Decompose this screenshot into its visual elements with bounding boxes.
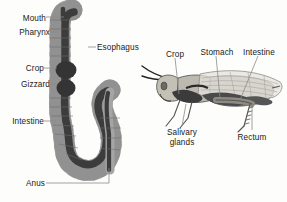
digestive-system-figure: Mouth Pharynx Esophagus Crop Gizzard Int… (0, 0, 287, 202)
label-rectum: Rectum (231, 133, 273, 142)
hind-tarsus (238, 126, 244, 132)
label-intestine-right: Intestine (237, 48, 281, 57)
compound-eye (161, 82, 167, 90)
grasshopper-artwork (142, 56, 282, 132)
label-pharynx: Pharynx (0, 28, 50, 37)
label-intestine: Intestine (0, 117, 44, 126)
label-esophagus: Esophagus (97, 43, 139, 52)
alimentary-canal-artwork (44, 9, 121, 183)
crop-bulb (56, 61, 77, 79)
label-anus: Anus (0, 179, 45, 188)
label-mouth: Mouth (0, 14, 46, 23)
label-salivary-glands-line2: glands (160, 138, 204, 147)
foreleg (166, 100, 180, 126)
label-gizzard: Gizzard (0, 80, 50, 89)
label-stomach: Stomach (196, 48, 238, 57)
label-crop: Crop (0, 64, 44, 73)
label-crop-right: Crop (155, 50, 195, 59)
gizzard-bulb (57, 80, 76, 97)
label-salivary-glands: Salivary (160, 128, 204, 137)
